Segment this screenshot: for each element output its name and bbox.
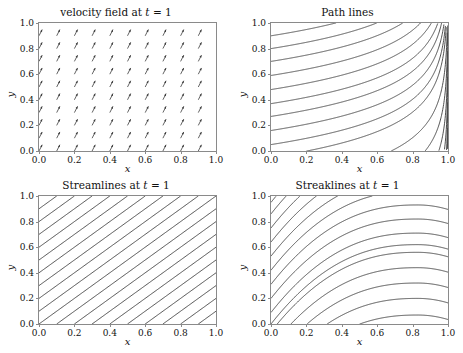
x-tick-mark (74, 151, 75, 154)
y-tick-mark (36, 151, 39, 152)
streaklines-curves (271, 196, 448, 324)
plot-curve (271, 196, 286, 214)
x-tick-label: 0.6 (370, 328, 384, 338)
velocity-arrow (57, 119, 60, 125)
y-tick-label: 0.4 (6, 95, 34, 105)
velocity-arrow (74, 68, 77, 74)
velocity-arrow (110, 81, 113, 87)
velocity-arrow (198, 68, 201, 74)
plot-curve (39, 196, 198, 311)
velocity-arrow (57, 145, 60, 151)
velocity-arrow (181, 68, 184, 74)
velocity-arrow (57, 106, 60, 112)
x-tick-label: 0.8 (405, 328, 419, 338)
x-tick-label: 0.8 (405, 155, 419, 165)
x-tick-label: 0.0 (264, 328, 278, 338)
x-axis-label-streaklines: x (270, 336, 449, 347)
y-tick-mark (36, 247, 39, 248)
plot-curve (181, 298, 216, 324)
x-tick-mark (377, 324, 378, 327)
velocity-arrow (74, 55, 77, 61)
plot-curve (57, 209, 216, 324)
x-tick-mark (306, 151, 307, 154)
velocity-arrow (145, 94, 148, 100)
velocity-arrow (128, 94, 131, 100)
plot-curve (271, 23, 431, 89)
velocity-arrow (39, 81, 42, 87)
velocity-arrow (92, 30, 95, 36)
velocity-arrow (128, 68, 131, 74)
velocity-arrow (39, 42, 42, 48)
y-tick-mark (36, 273, 39, 274)
plot-curve (271, 219, 448, 298)
x-tick-mark (216, 151, 217, 154)
panel-title-path-lines: Path lines (232, 6, 463, 18)
x-tick-label: 0.2 (67, 155, 81, 165)
x-tick-label: 0.2 (67, 328, 81, 338)
velocity-arrow (145, 30, 148, 36)
plot-curve (74, 222, 216, 324)
plot-curve (128, 260, 217, 324)
velocity-arrow (57, 30, 60, 36)
y-tick-label: 0.0 (238, 319, 266, 329)
velocity-arrow (163, 106, 166, 112)
x-tick-mark (271, 324, 272, 327)
y-tick-mark (268, 222, 271, 223)
x-tick-mark (271, 151, 272, 154)
x-tick-label: 0.6 (370, 155, 384, 165)
velocity-arrow (163, 119, 166, 125)
velocity-arrow (74, 132, 77, 138)
velocity-arrow (163, 30, 166, 36)
y-tick-mark (36, 49, 39, 50)
velocity-arrow (198, 42, 201, 48)
y-tick-label: 1.0 (6, 191, 34, 201)
velocity-arrow (92, 55, 95, 61)
x-tick-mark (448, 324, 449, 327)
x-tick-label: 0.0 (32, 155, 46, 165)
plot-curve (271, 24, 438, 104)
y-tick-label: 0.0 (238, 146, 266, 156)
x-tick-mark (145, 324, 146, 327)
velocity-arrow (110, 106, 113, 112)
panel-streaklines: Streaklines at t = 1 y x 0.00.20.40.60.8… (232, 177, 463, 353)
velocity-arrow (181, 106, 184, 112)
x-tick-mark (448, 151, 449, 154)
velocity-arrow (110, 68, 113, 74)
velocity-arrow (110, 42, 113, 48)
x-tick-mark (342, 151, 343, 154)
y-tick-mark (268, 74, 271, 75)
velocity-arrow (74, 30, 77, 36)
velocity-arrow (57, 94, 60, 100)
y-tick-label: 0.4 (6, 268, 34, 278)
velocity-arrow (181, 55, 184, 61)
quiver-plot (39, 23, 216, 151)
velocity-arrow (57, 42, 60, 48)
velocity-arrow (163, 42, 166, 48)
velocity-arrow (181, 42, 184, 48)
plot-curve (163, 286, 216, 324)
x-tick-label: 1.0 (209, 328, 223, 338)
y-tick-label: 0.2 (6, 120, 34, 130)
plot-area-streamlines (38, 195, 217, 325)
velocity-arrow (57, 55, 60, 61)
velocity-arrow (163, 55, 166, 61)
x-tick-label: 0.4 (103, 155, 117, 165)
plot-curve (271, 196, 338, 256)
plot-curve (39, 196, 74, 222)
x-axis-label-velocity-field: x (38, 163, 217, 174)
plot-curve (39, 196, 163, 286)
panel-title-streaklines: Streaklines at t = 1 (232, 179, 463, 191)
plot-curve (198, 311, 216, 324)
velocity-arrow (39, 119, 42, 125)
x-tick-mark (39, 151, 40, 154)
velocity-arrow (145, 55, 148, 61)
x-tick-label: 1.0 (209, 155, 223, 165)
y-tick-mark (268, 125, 271, 126)
velocity-arrow (39, 30, 42, 36)
y-tick-mark (268, 247, 271, 248)
y-tick-mark (36, 196, 39, 197)
plot-curve (327, 298, 448, 324)
plot-area-path-lines (270, 22, 449, 152)
velocity-arrow (198, 119, 201, 125)
y-tick-label: 0.0 (6, 319, 34, 329)
